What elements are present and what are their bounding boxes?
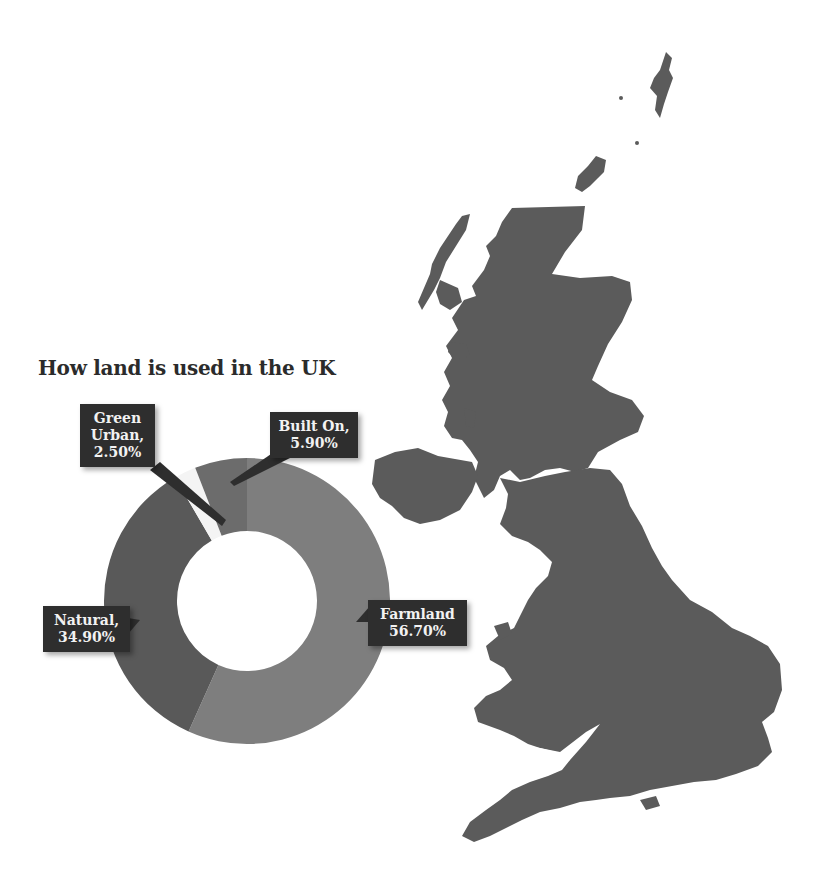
label-built-on-value: 5.90% xyxy=(277,435,351,452)
label-farmland-line1: Farmland xyxy=(375,606,460,623)
label-green-urban-line2: Urban, xyxy=(87,427,148,444)
label-built-on-line1: Built On, xyxy=(277,418,351,435)
label-farmland-value: 56.70% xyxy=(375,623,460,640)
label-natural-line1: Natural, xyxy=(50,612,123,629)
label-natural: Natural, 34.90% xyxy=(43,606,130,652)
label-natural-value: 34.90% xyxy=(50,629,123,646)
label-green-urban-line1: Green xyxy=(87,410,148,427)
label-green-urban: Green Urban, 2.50% xyxy=(80,404,155,467)
label-green-urban-value: 2.50% xyxy=(87,444,148,461)
label-farmland: Farmland 56.70% xyxy=(368,600,467,646)
label-built-on: Built On, 5.90% xyxy=(270,412,358,458)
